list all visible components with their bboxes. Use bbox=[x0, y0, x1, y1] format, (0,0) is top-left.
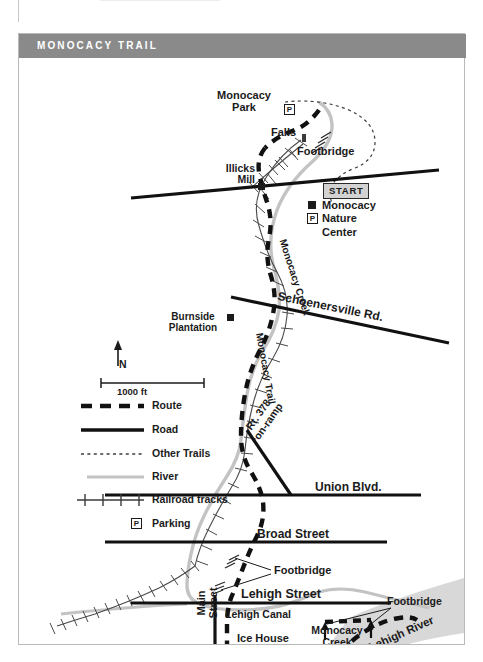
label-lehigh-street: Lehigh Street bbox=[241, 588, 321, 602]
start-marker[interactable]: START bbox=[323, 183, 369, 199]
label-monocacy-creek-south: Monocacy Creek bbox=[307, 624, 367, 644]
footbridge-hatch-mid-a bbox=[225, 555, 239, 568]
label-ice-house: Ice House bbox=[237, 633, 289, 644]
nature-center-building-marker bbox=[308, 201, 316, 209]
label-burnside-plantation: Burnside Plantation bbox=[162, 312, 224, 334]
north-arrow-label: N bbox=[119, 358, 127, 370]
parking-icon-north[interactable]: P bbox=[284, 104, 295, 115]
label-nature-center: Monocacy Nature Center bbox=[322, 199, 376, 239]
legend-label-railroad: Railroad tracks bbox=[152, 493, 228, 505]
label-union-blvd: Union Blvd. bbox=[315, 481, 382, 494]
map-title: MONOCACY TRAIL bbox=[37, 40, 158, 51]
page-artifact-line bbox=[18, 0, 19, 22]
legend-label-parking: Parking bbox=[152, 517, 191, 529]
lehigh-canal-line bbox=[61, 604, 187, 614]
label-footbridge-south: Footbridge bbox=[387, 596, 442, 607]
label-main-street: Main Street bbox=[195, 580, 220, 626]
label-falls: Falls bbox=[271, 127, 296, 139]
falls-marker bbox=[302, 134, 306, 142]
legend-label-road: Road bbox=[152, 423, 178, 435]
legend-label-route: Route bbox=[152, 399, 182, 411]
railroad-lower-left bbox=[50, 561, 199, 634]
label-broad-street: Broad Street bbox=[257, 528, 329, 541]
map-vector-layer bbox=[19, 58, 464, 644]
legend-label-river: River bbox=[152, 470, 178, 482]
legend-label-other-trails: Other Trails bbox=[152, 447, 210, 459]
legend-parking-icon: P bbox=[131, 518, 142, 529]
page-artifact-line-top bbox=[100, 0, 220, 1]
label-lehigh-canal: Lehigh Canal bbox=[225, 609, 291, 620]
illicks-mill-building-marker bbox=[258, 183, 265, 190]
label-footbridge-north: Footbridge bbox=[297, 146, 354, 158]
label-monocacy-park: Monocacy Park bbox=[209, 90, 279, 114]
parking-icon-nature-center[interactable]: P bbox=[307, 213, 318, 224]
map-card: MONOCACY TRAIL bbox=[18, 33, 465, 645]
scale-bar-label: 1000 ft bbox=[117, 386, 147, 397]
burnside-building-marker bbox=[227, 314, 234, 321]
label-footbridge-mid: Footbridge bbox=[274, 565, 331, 577]
map-header: MONOCACY TRAIL bbox=[19, 34, 466, 58]
label-illicks-mill: Illicks Mill bbox=[197, 163, 255, 186]
road-rt378-onramp bbox=[247, 430, 291, 495]
map-canvas: Monocacy Park Falls Footbridge Illicks M… bbox=[19, 58, 464, 644]
